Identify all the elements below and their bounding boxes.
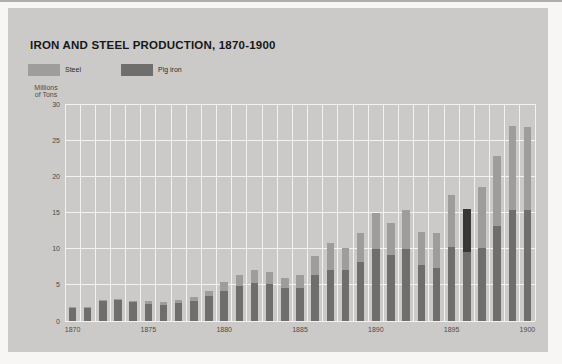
bar-1886-pig-iron-segment: [311, 275, 319, 321]
gridline-x-11: [231, 104, 232, 321]
x-tick-label-1870: 1870: [58, 326, 88, 333]
gridline-x-14: [277, 104, 278, 321]
bar-1872-pig-iron-segment: [99, 301, 107, 321]
gridline-x-20: [368, 104, 369, 321]
bar-1889-steel-segment: [357, 233, 365, 262]
bar-1895-steel-segment: [448, 195, 456, 247]
bar-1893-steel-segment: [418, 232, 426, 265]
bar-1879-pig-iron-segment: [205, 296, 213, 321]
gridline-x-1: [80, 104, 81, 321]
bar-1878-steel-segment: [190, 297, 198, 301]
bar-1882-steel-segment: [251, 270, 259, 283]
y-tick-label-10: 10: [34, 245, 60, 252]
gridline-x-7: [171, 104, 172, 321]
bar-1883-pig-iron-segment: [266, 284, 274, 321]
bar-1894-steel-segment: [433, 233, 441, 268]
bar-1878-pig-iron-segment: [190, 301, 198, 321]
bar-1886-steel-segment: [311, 256, 319, 276]
gridline-x-15: [292, 104, 293, 321]
gridline-x-21: [383, 104, 384, 321]
gridline-x-0: [65, 104, 66, 321]
bar-1881-pig-iron-segment: [236, 286, 244, 321]
bar-1877-steel-segment: [175, 300, 183, 303]
bar-1880-steel-segment: [220, 282, 228, 291]
legend-swatch-steel: [28, 64, 60, 76]
x-tick-label-1875: 1875: [133, 326, 163, 333]
gridline-x-2: [95, 104, 96, 321]
bar-1892-pig-iron-segment: [402, 249, 410, 321]
y-tick-label-30: 30: [34, 101, 60, 108]
gridline-x-29: [504, 104, 505, 321]
gridline-x-28: [489, 104, 490, 321]
bar-1885-pig-iron-segment: [296, 288, 304, 321]
bar-1887-pig-iron-segment: [327, 270, 335, 321]
bar-1900-steel-segment: [524, 127, 532, 210]
bar-1891-steel-segment: [387, 223, 395, 255]
gridline-x-13: [262, 104, 263, 321]
y-tick-label-25: 25: [34, 137, 60, 144]
gridline-x-30: [519, 104, 520, 321]
bar-1884-steel-segment: [281, 278, 289, 289]
bar-1899-pig-iron-segment: [509, 210, 517, 321]
bar-1884-pig-iron-segment: [281, 288, 289, 321]
bar-1885-steel-segment: [296, 275, 304, 288]
bar-1874-steel-segment: [129, 301, 137, 302]
bar-1883-steel-segment: [266, 272, 274, 284]
gridline-x-31: [535, 104, 536, 321]
bar-1899-steel-segment: [509, 126, 517, 210]
y-axis-title: Millions of Tons: [28, 84, 64, 98]
gridline-x-24: [428, 104, 429, 321]
gridline-x-19: [353, 104, 354, 321]
gridline-x-4: [125, 104, 126, 321]
bar-1873-pig-iron-segment: [114, 300, 122, 321]
bar-1900-pig-iron-segment: [524, 210, 532, 321]
bar-1882-pig-iron-segment: [251, 283, 259, 321]
bar-1875-steel-segment: [145, 301, 153, 303]
y-tick-label-5: 5: [34, 281, 60, 288]
bar-1898-steel-segment: [493, 156, 501, 225]
bar-1881-steel-segment: [236, 275, 244, 285]
bar-1896-pig-iron-segment: [463, 252, 471, 321]
gridline-x-26: [459, 104, 460, 321]
y-axis-title-line1: Millions: [28, 84, 64, 91]
bar-1876-pig-iron-segment: [160, 305, 168, 321]
chart-title: IRON AND STEEL PRODUCTION, 1870-1900: [30, 39, 276, 51]
y-tick-label-15: 15: [34, 209, 60, 216]
x-tick-label-1885: 1885: [285, 326, 315, 333]
gridline-x-17: [322, 104, 323, 321]
bar-1879-steel-segment: [205, 291, 213, 296]
legend-item-steel: Steel: [28, 63, 81, 76]
legend-label: Steel: [65, 66, 81, 73]
gridline-y-30: [65, 104, 535, 105]
bar-1870-pig-iron-segment: [69, 308, 77, 321]
page-top-edge: [0, 0, 562, 2]
bar-1895-pig-iron-segment: [448, 247, 456, 321]
bar-1871-pig-iron-segment: [84, 308, 92, 321]
bar-1897-steel-segment: [478, 187, 486, 248]
gridline-x-27: [474, 104, 475, 321]
legend-label: Pig iron: [158, 66, 182, 73]
bar-1890-steel-segment: [372, 213, 380, 249]
bar-1874-pig-iron-segment: [129, 302, 137, 321]
bar-1880-pig-iron-segment: [220, 291, 228, 321]
legend-swatch-pig-iron: [121, 64, 153, 76]
y-tick-label-20: 20: [34, 173, 60, 180]
bar-1870-steel-segment: [69, 307, 77, 308]
gridline-x-5: [140, 104, 141, 321]
bar-1891-pig-iron-segment: [387, 255, 395, 321]
bar-1896-steel-segment: [463, 209, 471, 252]
x-tick-label-1895: 1895: [437, 326, 467, 333]
bar-1888-steel-segment: [342, 248, 350, 270]
bar-1877-pig-iron-segment: [175, 303, 183, 321]
gridline-x-25: [444, 104, 445, 321]
bar-1890-pig-iron-segment: [372, 249, 380, 321]
legend-item-pig-iron: Pig iron: [121, 63, 182, 76]
y-tick-label-0: 0: [34, 318, 60, 325]
gridline-x-12: [246, 104, 247, 321]
gridline-y-25: [65, 140, 535, 141]
bar-1871-steel-segment: [84, 307, 92, 308]
gridline-x-16: [307, 104, 308, 321]
gridline-x-8: [186, 104, 187, 321]
x-tick-label-1890: 1890: [361, 326, 391, 333]
gridline-x-9: [201, 104, 202, 321]
